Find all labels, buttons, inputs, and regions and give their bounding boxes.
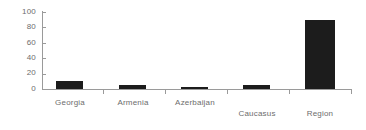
x-label-armenia: Armenia bbox=[104, 97, 162, 108]
x-tick-mark-1 bbox=[103, 90, 104, 94]
plot-area: 100 80 60 40 20 0 Georgia Armenia Azerba… bbox=[0, 0, 366, 130]
x-label-region-average-line1: Region bbox=[307, 109, 334, 118]
bar-region-average bbox=[305, 20, 335, 89]
x-tick-mark-2 bbox=[165, 90, 166, 94]
bar-georgia bbox=[56, 81, 83, 89]
x-axis-line bbox=[42, 89, 352, 90]
y-tick-mark-20 bbox=[43, 74, 46, 75]
y-axis-line bbox=[42, 11, 43, 89]
y-tick-mark-40 bbox=[43, 58, 46, 59]
x-label-caucasus-average: Caucasus average bbox=[228, 97, 286, 130]
x-tick-mark-4 bbox=[289, 90, 290, 94]
bar-chart: 100 80 60 40 20 0 Georgia Armenia Azerba… bbox=[0, 0, 366, 130]
y-tick-label-100: 100 bbox=[0, 8, 36, 16]
bar-caucasus-average bbox=[243, 85, 270, 89]
y-tick-label-60: 60 bbox=[0, 39, 36, 47]
y-tick-label-20: 20 bbox=[0, 69, 36, 77]
bar-armenia bbox=[119, 85, 146, 89]
y-tick-label-80: 80 bbox=[0, 23, 36, 31]
x-label-region-average: Region average bbox=[291, 97, 349, 130]
bar-azerbaijan bbox=[181, 87, 208, 89]
y-tick-mark-60 bbox=[43, 43, 46, 44]
x-label-caucasus-average-line1: Caucasus bbox=[238, 109, 275, 118]
y-tick-label-0: 0 bbox=[0, 85, 36, 93]
x-tick-mark-3 bbox=[227, 90, 228, 94]
y-tick-mark-100 bbox=[43, 12, 46, 13]
x-label-azerbaijan: Azerbaijan bbox=[166, 97, 224, 108]
x-tick-mark-5 bbox=[351, 90, 352, 94]
x-label-georgia: Georgia bbox=[41, 97, 99, 108]
y-tick-mark-80 bbox=[43, 27, 46, 28]
y-tick-label-40: 40 bbox=[0, 54, 36, 62]
